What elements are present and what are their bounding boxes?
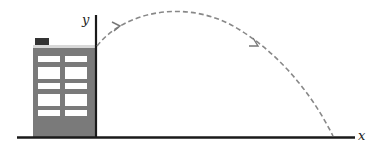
arrow-icon [112, 22, 120, 31]
window [65, 110, 87, 116]
x-axis-label: x [358, 128, 366, 143]
y-axis-label: y [81, 12, 90, 27]
roof-ledge [33, 45, 96, 48]
trajectory-path [97, 11, 333, 136]
building [33, 38, 96, 137]
chimney [35, 38, 49, 45]
window [65, 83, 87, 89]
window [65, 94, 87, 106]
trajectory-arrows [112, 22, 258, 46]
window [38, 56, 60, 62]
window [38, 83, 60, 89]
window [65, 56, 87, 62]
window [38, 110, 60, 116]
window [38, 67, 60, 79]
diagram-svg: y x [0, 0, 380, 148]
projectile-diagram: y x [0, 0, 380, 148]
window [65, 67, 87, 79]
window [38, 94, 60, 106]
